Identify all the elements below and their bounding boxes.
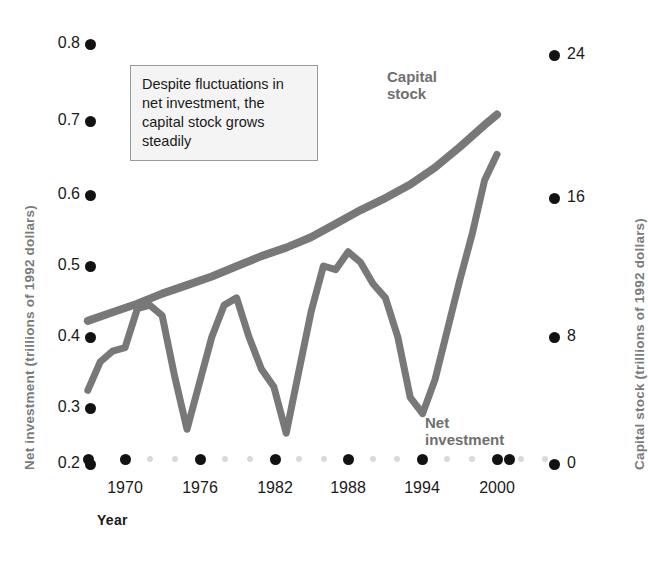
x-axis-tick-label: 1976: [170, 479, 230, 497]
y-axis-right-tick-label: 0: [567, 454, 607, 472]
x-axis-tick-dot: [120, 454, 131, 465]
y-axis-left-tick-dot: [85, 190, 96, 201]
series-line-net-investment: [88, 154, 497, 433]
y-axis-left-tick-dot: [85, 116, 96, 127]
y-axis-right-tick-dot: [549, 459, 560, 470]
x-axis-tick-dot: [417, 454, 428, 465]
y-axis-right-tick-dot: [549, 193, 560, 204]
y-axis-left-tick-label: 0.3: [36, 398, 80, 416]
y-axis-left-tick-label: 0.6: [36, 185, 80, 203]
x-axis-tick-dot: [492, 454, 503, 465]
y-axis-left-tick-dot: [85, 39, 96, 50]
x-axis-tick-label: 1994: [392, 479, 452, 497]
x-axis-extra-tick-dot: [83, 454, 94, 465]
x-axis-tick-label: 1982: [245, 479, 305, 497]
y-axis-left-tick-dot: [85, 261, 96, 272]
x-axis-extra-tick-dot: [504, 454, 515, 465]
y-axis-right-tick-label: 16: [567, 188, 607, 206]
x-axis-tick-label: 2000: [467, 479, 527, 497]
x-axis-minor-tick-dot: [444, 456, 450, 462]
x-axis-minor-tick-dot: [247, 456, 253, 462]
x-axis-tick-label: 1988: [318, 479, 378, 497]
x-axis-title: Year: [97, 512, 128, 528]
y-axis-left-tick-label: 0.4: [36, 327, 80, 345]
x-axis-minor-tick-dot: [321, 456, 327, 462]
y-axis-left-title: Net investment (trillions of 1992 dollar…: [22, 205, 37, 470]
y-axis-left-tick-dot: [85, 403, 96, 414]
x-axis-tick-label: 1970: [95, 479, 155, 497]
series-label-capital-stock: Capital stock: [387, 68, 437, 103]
y-axis-left-tick-label: 0.7: [36, 111, 80, 129]
y-axis-right-title: Capital stock (trillions of 1992 dollars…: [632, 218, 647, 470]
y-axis-left-tick-label: 0.5: [36, 256, 80, 274]
series-label-net-investment: Net investment: [425, 414, 504, 449]
y-axis-left-tick-label: 0.8: [36, 34, 80, 52]
x-axis-tick-dot: [195, 454, 206, 465]
y-axis-right-tick-dot: [549, 50, 560, 61]
y-axis-left-tick-dot: [85, 332, 96, 343]
y-axis-right-tick-label: 8: [567, 327, 607, 345]
x-axis-minor-tick-dot: [147, 456, 153, 462]
y-axis-right-tick-dot: [549, 332, 560, 343]
x-axis-extra-tick-dot: [542, 456, 548, 462]
x-axis-tick-dot: [343, 454, 354, 465]
x-axis-minor-tick-dot: [222, 456, 228, 462]
x-axis-minor-tick-dot: [469, 456, 475, 462]
x-axis-minor-tick-dot: [370, 456, 376, 462]
y-axis-right-tick-label: 24: [567, 45, 607, 63]
annotation-callout: Despite fluctuations in net investment, …: [130, 65, 318, 161]
x-axis-tick-dot: [270, 454, 281, 465]
x-axis-extra-tick-dot: [518, 456, 524, 462]
y-axis-left-tick-label: 0.2: [36, 454, 80, 472]
x-axis-minor-tick-dot: [172, 456, 178, 462]
chart-figure: Despite fluctuations in net investment, …: [0, 0, 648, 569]
